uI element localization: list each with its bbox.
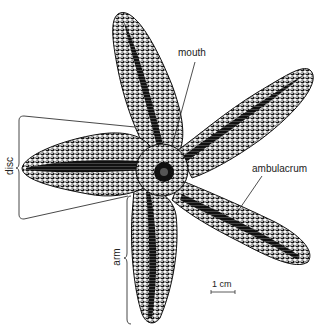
scale-bar [211, 290, 235, 294]
disc-label: disc [5, 155, 15, 177]
starfish-diagram: mouth ambulacrum disc arm 1 cm [0, 0, 322, 334]
central-disc [136, 144, 188, 196]
arm-right-lower [172, 180, 310, 265]
scale-label: 1 cm [212, 280, 232, 289]
arm-left [22, 133, 150, 196]
arm-bottom [131, 187, 177, 323]
ambulacrum-leader-line [236, 176, 262, 214]
arm-right-upper [178, 69, 313, 178]
arm-label: arm [112, 246, 122, 268]
mouth-label: mouth [178, 48, 206, 58]
arm-bracket [124, 196, 131, 324]
ambulacrum-label: ambulacrum [252, 164, 307, 174]
